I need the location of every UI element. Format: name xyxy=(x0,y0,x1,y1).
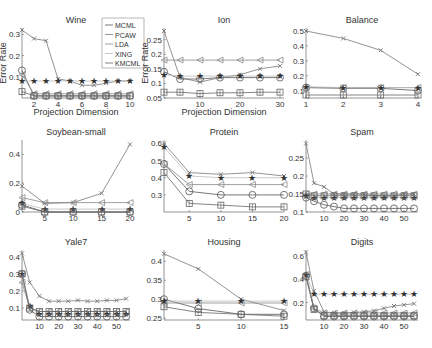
series-mcml xyxy=(303,84,422,94)
x-tick-label: 20 xyxy=(340,214,349,223)
svg-text:★: ★ xyxy=(185,171,193,181)
subplot-housing: Housing510150.250.30.350.4★★★★ xyxy=(146,237,289,331)
svg-text:★: ★ xyxy=(248,173,256,183)
y-axis-label: Error Rate xyxy=(0,42,8,84)
y-tick-label: 0.4 xyxy=(9,150,21,159)
svg-text:★: ★ xyxy=(302,82,310,92)
x-tick-label: 40 xyxy=(380,322,389,331)
x-tick-label: 30 xyxy=(360,214,369,223)
x-tick-label: 3 xyxy=(378,100,383,109)
svg-text:★: ★ xyxy=(160,142,168,152)
svg-text:★: ★ xyxy=(176,71,184,81)
x-tick-label: 40 xyxy=(380,214,389,223)
y-tick-label: 0.2 xyxy=(9,52,21,61)
subplot-soybean-small: Soybean-small510152000.20.4★★★★★ xyxy=(9,127,135,223)
series-xing: ★★★★★★★ xyxy=(160,70,284,81)
svg-text:★: ★ xyxy=(340,289,348,299)
svg-text:★: ★ xyxy=(339,83,347,93)
x-tick-label: 50 xyxy=(400,322,409,331)
svg-text:★: ★ xyxy=(78,76,86,86)
svg-text:★: ★ xyxy=(410,289,418,299)
x-tick-label: 50 xyxy=(112,322,121,331)
x-tick-label: 10 xyxy=(237,322,246,331)
subplot-yale7: Yale710203040500.10.20.30.4★★★★★★★★★★★★ xyxy=(9,237,130,331)
y-tick-label: 0.25 xyxy=(288,154,304,163)
svg-text:★: ★ xyxy=(400,289,408,299)
subplot-digits: Digits10203040500.20.40.6★★★★★★★★★★★★ xyxy=(293,237,418,331)
legend-entry: KMCML xyxy=(115,60,140,67)
svg-text:★: ★ xyxy=(320,289,328,299)
y-tick-label: 0.2 xyxy=(151,50,163,59)
svg-text:★: ★ xyxy=(18,76,26,86)
y-tick-label: 0.4 xyxy=(151,257,163,266)
x-tick-label: 5 xyxy=(187,214,192,223)
legend-entry: PCAW xyxy=(115,32,136,39)
series-pcaw xyxy=(20,142,132,205)
series-pcaw xyxy=(304,142,416,198)
series-pcaw xyxy=(304,250,416,315)
x-tick-label: 10 xyxy=(216,214,225,223)
subplot-title: Housing xyxy=(207,237,240,247)
svg-text:★: ★ xyxy=(280,296,288,306)
series-xing: ★★★★ xyxy=(302,82,422,93)
figure-grid: Wine2468100.10.20.3★★★★★★★★★★Error RateP… xyxy=(0,0,432,348)
x-axis-label: Projection Dimension xyxy=(181,107,266,117)
svg-text:★: ★ xyxy=(236,71,244,81)
x-tick-label: 10 xyxy=(35,322,44,331)
series-pcaw xyxy=(20,251,128,303)
svg-text:★: ★ xyxy=(360,289,368,299)
x-tick-label: 4 xyxy=(416,100,421,109)
x-tick-label: 50 xyxy=(400,214,409,223)
svg-text:★: ★ xyxy=(196,71,204,81)
subplot-title: Yale7 xyxy=(65,237,87,247)
y-tick-label: 0.4 xyxy=(293,42,305,51)
subplot-balance: Balance12340.10.20.30.40.5★★★★ xyxy=(293,15,422,109)
subplot-title: Soybean-small xyxy=(46,127,106,137)
y-tick-label: 0.3 xyxy=(151,191,163,200)
svg-text:★: ★ xyxy=(90,76,98,86)
y-tick-label: 0.2 xyxy=(9,179,21,188)
svg-text:★: ★ xyxy=(30,76,38,86)
series-xing: ★★★★ xyxy=(160,296,288,306)
y-tick-label: 0.1 xyxy=(293,208,305,217)
svg-text:★: ★ xyxy=(54,76,62,86)
x-tick-label: 20 xyxy=(280,214,289,223)
legend-entry: XING xyxy=(115,51,132,58)
subplot-title: Ion xyxy=(218,15,231,25)
y-tick-label: 0.35 xyxy=(146,276,162,285)
subplot-title: Protein xyxy=(210,127,239,137)
x-tick-label: 10 xyxy=(320,322,329,331)
svg-text:★: ★ xyxy=(114,76,122,86)
svg-text:★: ★ xyxy=(102,76,110,86)
y-tick-label: 0.25 xyxy=(146,314,162,323)
x-tick-label: 10 xyxy=(126,100,135,109)
series-xing: ★★★★★★★★★★ xyxy=(18,76,134,86)
series-xing: ★★★★★★★★★★★★ xyxy=(302,270,418,300)
svg-text:★: ★ xyxy=(217,173,225,183)
x-tick-label: 10 xyxy=(320,214,329,223)
subplot-wine: Wine2468100.10.20.3★★★★★★★★★★Error RateP… xyxy=(0,15,144,117)
svg-text:★: ★ xyxy=(390,289,398,299)
subplot-spam: Spam10203040500.10.150.20.25★★★★★★★★★★★★ xyxy=(288,127,418,223)
x-axis-label: Projection Dimension xyxy=(33,107,118,117)
y-tick-label: 0.2 xyxy=(293,299,305,308)
y-tick-label: 0.2 xyxy=(9,287,21,296)
svg-text:★: ★ xyxy=(194,296,202,306)
y-axis-label: Error Rate xyxy=(140,42,150,84)
x-tick-label: 20 xyxy=(54,322,63,331)
subplot-title: Spam xyxy=(350,127,374,137)
y-tick-label: 0.4 xyxy=(9,253,21,262)
x-tick-label: 30 xyxy=(360,322,369,331)
x-tick-label: 30 xyxy=(276,100,285,109)
y-tick-label: 0.05 xyxy=(146,94,162,103)
svg-text:★: ★ xyxy=(350,289,358,299)
y-tick-label: 0.2 xyxy=(293,72,305,81)
svg-text:★: ★ xyxy=(280,173,288,183)
subplot-ion: Ion1020300.050.10.150.20.25★★★★★★★Error … xyxy=(140,15,285,117)
svg-text:★: ★ xyxy=(377,83,385,93)
x-tick-label: 30 xyxy=(73,322,82,331)
legend-entry: LDA xyxy=(115,41,129,48)
subplot-protein: Protein51015200.30.40.50.6★★★★★ xyxy=(151,127,289,223)
svg-text:★: ★ xyxy=(256,71,264,81)
y-tick-label: 0.1 xyxy=(151,79,163,88)
